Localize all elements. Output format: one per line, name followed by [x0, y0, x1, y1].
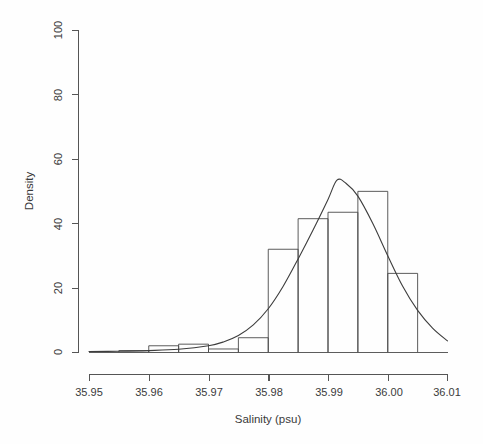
x-tick-label-3601: 36.01 [433, 386, 461, 398]
plot-canvas: 100 80 60 40 20 0 Density [0, 0, 483, 444]
density-plot-figure: 100 80 60 40 20 0 Density [0, 0, 483, 444]
histogram-bar [149, 346, 179, 352]
y-axis-title: Density [23, 172, 35, 211]
y-tick-label-100: 100 [52, 21, 64, 39]
y-tick-label-80: 80 [52, 89, 64, 101]
histogram-bar [238, 338, 268, 352]
histogram-bar [268, 249, 298, 352]
y-tick-label-0: 0 [52, 349, 64, 355]
x-tick-label-3598: 35.98 [255, 386, 283, 398]
y-tick-label-60: 60 [52, 153, 64, 165]
x-tick-label-3596: 35.96 [135, 386, 163, 398]
x-tick-label-3600: 36.00 [375, 386, 403, 398]
x-axis-ticks [90, 375, 448, 382]
histogram-bar [209, 349, 239, 352]
y-axis: 100 80 60 40 20 0 Density [23, 21, 79, 355]
x-tick-label-3599: 35.99 [315, 386, 343, 398]
x-axis-tick-labels: 35.95 35.96 35.97 35.98 35.99 36.00 36.0… [75, 386, 461, 398]
histogram-bar [358, 191, 388, 352]
histogram-bar [328, 212, 358, 352]
histogram-bar [298, 219, 328, 353]
x-tick-label-3597: 35.97 [195, 386, 223, 398]
y-tick-label-40: 40 [52, 218, 64, 230]
x-axis: 35.95 35.96 35.97 35.98 35.99 36.00 36.0… [75, 375, 461, 426]
x-tick-label-3595: 35.95 [75, 386, 103, 398]
y-tick-label-20: 20 [52, 282, 64, 294]
x-axis-title: Salinity (psu) [235, 413, 302, 425]
histogram-bars [119, 191, 418, 352]
y-axis-tick-labels: 100 80 60 40 20 0 [52, 21, 64, 355]
y-axis-ticks [72, 31, 79, 353]
